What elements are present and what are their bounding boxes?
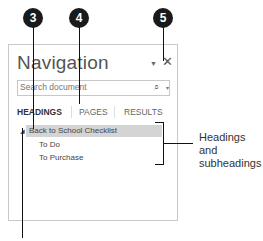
heading-item[interactable]: Back to School Checklist xyxy=(26,125,162,137)
leader-line-toggle xyxy=(22,128,23,238)
bracket-bottom xyxy=(155,164,163,165)
dropdown-arrow-icon[interactable]: ▼ xyxy=(150,60,157,67)
callout-3: 3 xyxy=(23,8,43,28)
search-input[interactable] xyxy=(20,82,120,92)
callout-4: 4 xyxy=(69,8,89,28)
tab-headings[interactable]: HEADINGS xyxy=(17,107,62,117)
annotation-line-2: subheadings xyxy=(199,157,263,170)
search-options-chevron-icon[interactable]: ▾ xyxy=(166,84,169,91)
tab-pages[interactable]: PAGES xyxy=(79,107,108,117)
pane-title: Navigation xyxy=(17,52,109,74)
leader-line-3 xyxy=(33,27,34,129)
bracket-top xyxy=(155,122,163,123)
subheading-item[interactable]: To Do xyxy=(39,139,60,151)
callout-5: 5 xyxy=(153,8,173,28)
search-icon[interactable]: ⌕ xyxy=(154,82,159,93)
annotation-label: Headings and subheadings xyxy=(199,131,263,170)
tab-divider xyxy=(114,106,115,118)
annotation-line-1: Headings and xyxy=(199,131,263,157)
tab-results[interactable]: RESULTS xyxy=(124,107,163,117)
subheading-item[interactable]: To Purchase xyxy=(39,152,83,164)
leader-line-5 xyxy=(163,27,164,61)
leader-line-4 xyxy=(79,27,80,104)
bracket-leader xyxy=(163,143,193,144)
tab-divider xyxy=(71,106,72,118)
search-box[interactable]: ⌕ ▾ xyxy=(17,80,170,96)
